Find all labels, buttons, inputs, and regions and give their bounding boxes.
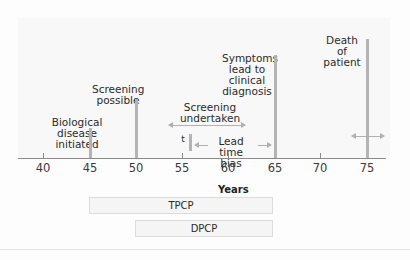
- tick-55: [182, 153, 183, 158]
- arrowhead-right-icon: [241, 122, 246, 128]
- tick-40: [43, 153, 44, 158]
- period-tpcp: TPCP: [89, 197, 273, 214]
- arrowhead-left-icon: [194, 142, 199, 148]
- t-marker: t: [179, 134, 187, 145]
- page-divider: [0, 249, 410, 250]
- tick-label-75: 75: [355, 161, 379, 175]
- arrowhead-right-icon: [267, 142, 272, 148]
- death-range-arrow: [355, 136, 381, 137]
- event-bar-56: [189, 134, 192, 151]
- tick-label-45: 45: [78, 161, 102, 175]
- arrowhead-left-icon: [351, 133, 356, 139]
- diagram-page: Biological disease initiated Screening p…: [0, 0, 410, 260]
- x-axis-label: Years: [218, 184, 249, 195]
- tick-label-50: 50: [124, 161, 148, 175]
- screening-undertaken-range-arrow: [172, 125, 242, 126]
- tick-label-55: 55: [170, 161, 194, 175]
- arrowhead-left-icon: [168, 122, 173, 128]
- lead-time-arrow-right: [258, 145, 268, 146]
- label-screening-undertaken: Screening undertaken: [178, 102, 242, 124]
- event-bar-75: [366, 39, 369, 158]
- tick-70: [320, 153, 321, 158]
- tick-label-70: 70: [308, 161, 332, 175]
- x-axis: [18, 158, 386, 159]
- tick-label-60: 60: [216, 161, 240, 175]
- tick-60: [228, 153, 229, 158]
- label-death-of-patient: Death of patient: [322, 35, 362, 68]
- event-bar-45: [89, 128, 92, 158]
- tick-label-65: 65: [263, 161, 287, 175]
- arrowhead-right-icon: [380, 133, 385, 139]
- tick-label-40: 40: [31, 161, 55, 175]
- event-bar-50: [135, 99, 138, 158]
- event-bar-65: [274, 55, 277, 158]
- label-symptoms-clinical-diagnosis: Symptoms lead to clinical diagnosis: [222, 53, 272, 97]
- label-biological-disease-initiated: Biological disease initiated: [44, 117, 110, 150]
- period-dpcp: DPCP: [135, 220, 273, 237]
